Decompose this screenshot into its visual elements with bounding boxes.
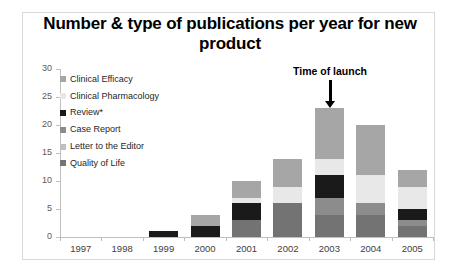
bar-segment [191,226,220,237]
legend-item-label: Case Report [70,125,121,134]
legend-item-label: Clinical Pharmacology [70,92,159,101]
x-axis-tick-label: 2004 [348,244,394,254]
y-axis-tick-label: 25 [26,92,52,101]
bar-segment [232,220,261,237]
y-axis-tick-label: 20 [26,120,52,129]
bar-segment [356,203,385,214]
x-axis-tick [392,237,393,241]
y-axis-tick-label: 0 [26,232,52,241]
legend-item: Review* [60,105,180,122]
bar-segment [273,159,302,187]
launch-annotation-label: Time of launch [278,66,382,77]
bar-column [273,159,302,237]
legend-item-label: Clinical Efficacy [70,75,133,84]
bar-column [149,231,178,237]
legend-swatch-icon [60,76,66,82]
x-axis-tick-label: 2005 [389,244,435,254]
bar-column [356,125,385,237]
bar-column [191,215,220,237]
bar-segment [315,215,344,237]
x-axis-tick [433,237,434,241]
chart-legend: Clinical EfficacyClinical PharmacologyRe… [60,71,180,172]
legend-item: Quality of Life [60,155,180,172]
x-axis-tick-label: 2002 [265,244,311,254]
x-axis-tick-label: 1998 [99,244,145,254]
x-axis-tick-label: 2001 [224,244,270,254]
legend-item-label: Letter to the Editor [70,142,144,151]
bar-segment [273,187,302,204]
x-axis-tick-label: 1999 [141,244,187,254]
bar-segment [315,159,344,176]
bar-segment [398,226,427,237]
x-axis-tick [60,237,61,241]
legend-swatch-icon [60,160,66,166]
launch-arrow-stem-icon [329,80,332,103]
bar-segment [315,175,344,197]
legend-swatch-icon [60,110,66,116]
bar-segment [398,170,427,187]
legend-item: Clinical Pharmacology [60,88,180,105]
legend-swatch-icon [60,93,66,99]
x-axis-tick [143,237,144,241]
x-axis-tick-label: 1997 [58,244,104,254]
x-axis-tick-label: 2000 [182,244,228,254]
y-axis-tick-label: 30 [26,64,52,73]
bar-segment [232,203,261,220]
bar-segment [356,125,385,175]
bar-segment [232,181,261,198]
x-axis-line [60,237,433,238]
legend-item-label: Quality of Life [70,159,125,168]
x-axis-tick [226,237,227,241]
y-axis-tick-label: 5 [26,204,52,213]
x-axis-tick [184,237,185,241]
bar-segment [191,215,220,226]
bar-segment [315,198,344,215]
bar-segment [356,215,385,237]
chart-figure: Number & type of publications per year f… [0,0,458,276]
legend-item: Clinical Efficacy [60,71,180,88]
bar-segment [356,175,385,203]
bar-segment [315,108,344,158]
x-axis-tick-label: 2003 [306,244,352,254]
bar-segment [398,209,427,220]
y-axis-tick-label: 10 [26,176,52,185]
bar-column [398,170,427,237]
bar-column [315,108,344,237]
bar-segment [273,203,302,237]
y-axis-tick-label: 15 [26,148,52,157]
bar-segment [398,187,427,209]
legend-item: Case Report [60,121,180,138]
launch-arrow-head-icon [325,101,335,108]
x-axis-tick [350,237,351,241]
legend-item-label: Review* [70,108,103,117]
legend-swatch-icon [60,144,66,150]
x-axis-tick [309,237,310,241]
legend-swatch-icon [60,127,66,133]
bar-segment [149,231,178,237]
x-axis-tick [101,237,102,241]
x-axis-tick [267,237,268,241]
chart-title: Number & type of publications per year f… [40,14,420,54]
legend-item: Letter to the Editor [60,138,180,155]
bar-column [232,181,261,237]
